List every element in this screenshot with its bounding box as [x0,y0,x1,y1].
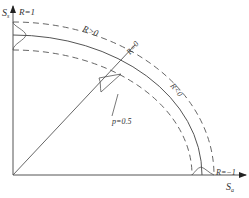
label-r-equals-1: R=1 [18,7,35,17]
diagram-canvas: Ss R=1 R>0 R=0 R<0 p=0.5 R=−1 Sa [0,0,249,198]
label-p-0-5: p=0.5 [111,117,131,126]
label-r-equals-neg1: R=−1 [215,168,236,177]
distribution-curve-x-axis [192,167,214,175]
y-axis-label: Ss [2,7,10,19]
distribution-curve-diagonal [99,74,121,92]
r-zero-line [13,45,135,175]
mean-arc [13,35,202,175]
upper-limit-arc [13,22,214,175]
lower-limit-arc [13,50,192,175]
p-pointer-line [112,94,118,116]
distribution-curve-y-axis [13,22,26,50]
label-r-less-0: R<0 [168,81,185,99]
x-axis-label: Sa [226,181,234,193]
